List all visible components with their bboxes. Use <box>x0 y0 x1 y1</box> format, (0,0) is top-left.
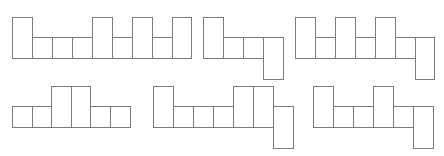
net-cell <box>73 38 93 59</box>
net-cell <box>414 107 434 149</box>
net-cell <box>274 107 294 149</box>
net-cell <box>354 107 374 128</box>
net-cell <box>214 107 234 128</box>
net-cell <box>154 87 174 128</box>
box-net-1 <box>13 18 192 59</box>
net-cell <box>356 38 376 59</box>
net-cell <box>113 38 133 59</box>
net-cell <box>254 87 274 128</box>
net-cell <box>91 107 111 128</box>
net-cell <box>394 107 414 128</box>
net-cell <box>52 87 72 128</box>
net-cell <box>174 107 194 128</box>
net-cell <box>133 18 153 59</box>
net-cell <box>296 18 316 59</box>
net-cell <box>13 18 33 59</box>
net-cell <box>224 38 244 59</box>
box-net-6 <box>314 87 434 149</box>
net-cell <box>194 107 214 128</box>
net-cell <box>204 18 224 59</box>
net-cell <box>314 87 334 128</box>
box-net-3 <box>296 18 435 80</box>
net-cell <box>33 38 53 59</box>
net-cell <box>93 18 113 59</box>
net-cell <box>316 38 336 59</box>
box-net-2 <box>204 18 284 80</box>
net-cell <box>334 107 354 128</box>
net-cell <box>72 87 91 128</box>
box-net-5 <box>154 87 294 149</box>
diagram-canvas <box>0 0 444 156</box>
net-cell <box>244 38 264 59</box>
net-cell <box>336 18 356 59</box>
net-cell <box>13 107 33 128</box>
net-cell <box>173 18 192 59</box>
net-cell <box>33 107 52 128</box>
box-net-4 <box>13 87 131 128</box>
net-cell <box>234 87 254 128</box>
net-cell <box>153 38 173 59</box>
net-cell <box>374 87 394 128</box>
net-cell <box>53 38 73 59</box>
net-cell <box>111 107 131 128</box>
net-cell <box>264 38 284 80</box>
net-cell <box>376 18 396 59</box>
net-cell <box>396 38 416 59</box>
net-cell <box>416 38 435 80</box>
